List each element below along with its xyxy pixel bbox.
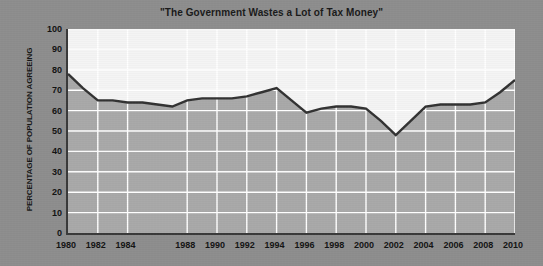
plot-area — [66, 29, 515, 235]
y-axis-label: PERCENTAGE OF POPULATION AGREEING — [25, 30, 34, 230]
chart-title: "The Government Wastes a Lot of Tax Mone… — [0, 7, 543, 18]
x-tick-label: 2002 — [384, 240, 404, 251]
x-tick-label: 1980 — [56, 240, 76, 251]
x-tick-label: 2006 — [443, 240, 463, 251]
x-tick-label: 1988 — [175, 240, 195, 251]
x-tick-label: 1998 — [324, 240, 344, 251]
x-tick-label: 1992 — [235, 240, 255, 251]
chart-figure: "The Government Wastes a Lot of Tax Mone… — [0, 0, 543, 266]
x-tick-label: 1994 — [265, 240, 285, 251]
y-tick-label: 40 — [40, 146, 62, 156]
y-tick-label: 80 — [40, 65, 62, 75]
y-axis-tick-labels: 0102030405060708090100 — [40, 23, 62, 239]
x-tick-label: 1984 — [116, 240, 136, 251]
area-fill — [68, 74, 515, 233]
x-tick-label: 2008 — [473, 240, 493, 251]
y-tick-label: 60 — [40, 106, 62, 116]
x-tick-label: 1982 — [86, 240, 106, 251]
x-tick-label: 2000 — [354, 240, 374, 251]
x-tick-label: 1990 — [205, 240, 225, 251]
y-tick-label: 100 — [40, 24, 62, 34]
y-tick-label: 10 — [40, 208, 62, 218]
y-tick-label: 30 — [40, 167, 62, 177]
x-axis-tick-labels: 1980198219841988199019921994199619982000… — [66, 240, 513, 254]
y-tick-label: 90 — [40, 44, 62, 54]
y-tick-label: 20 — [40, 187, 62, 197]
y-tick-label: 0 — [40, 228, 62, 238]
x-tick-label: 1996 — [294, 240, 314, 251]
x-tick-label: 2004 — [414, 240, 434, 251]
plot-inner — [68, 29, 515, 233]
area-chart-svg — [68, 29, 515, 233]
x-tick-label: 2010 — [503, 240, 523, 251]
y-tick-label: 70 — [40, 85, 62, 95]
y-tick-label: 50 — [40, 126, 62, 136]
